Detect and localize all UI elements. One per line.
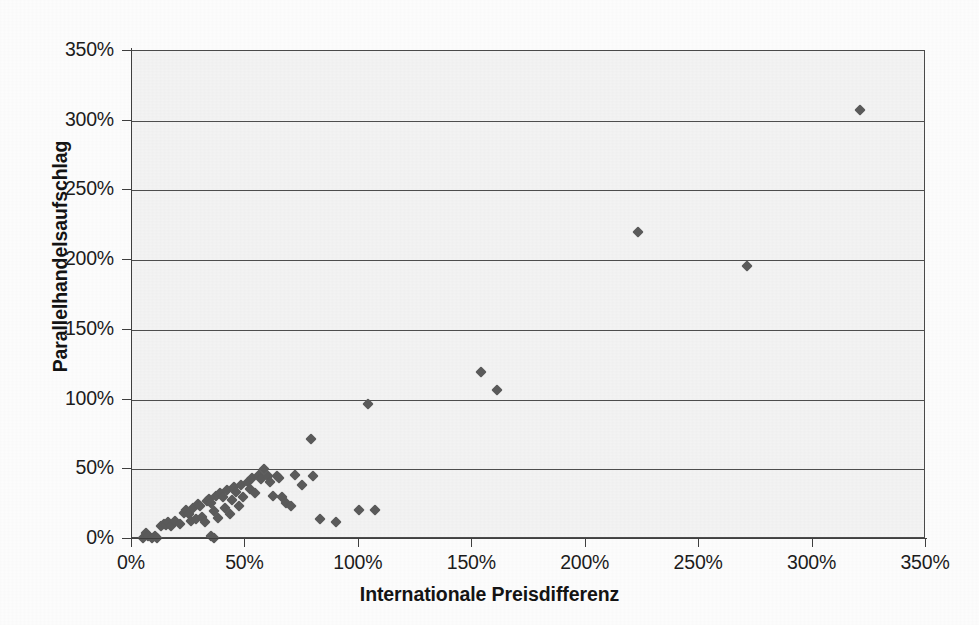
data-point: [315, 514, 326, 525]
x-axis-tick: [812, 538, 813, 547]
data-point: [306, 433, 317, 444]
y-axis-tick: [122, 50, 131, 51]
y-axis-tick-label: 200%: [42, 247, 114, 270]
gridline-y: [132, 400, 924, 401]
gridline-y: [132, 330, 924, 331]
x-axis-tick: [698, 538, 699, 547]
x-axis-title: Internationale Preisdifferenz: [0, 583, 979, 606]
y-axis-tick-label: 250%: [42, 177, 114, 200]
y-axis-tick: [122, 259, 131, 260]
x-axis-tick-label: 100%: [313, 551, 403, 574]
y-axis-tick: [122, 468, 131, 469]
x-axis-tick-label: 200%: [540, 551, 630, 574]
y-axis-tick-label: 50%: [42, 456, 114, 479]
y-axis-tick-label: 100%: [42, 387, 114, 410]
data-point: [632, 227, 643, 238]
data-point: [296, 479, 307, 490]
y-axis-tick: [122, 538, 131, 539]
scatter-chart: Parallelhandelsaufschlag Internationale …: [0, 0, 979, 625]
data-point: [353, 504, 364, 515]
x-axis-tick: [244, 538, 245, 547]
x-axis-line: [129, 538, 927, 539]
x-axis-tick-label: 250%: [653, 551, 743, 574]
gridline-y: [132, 469, 924, 470]
y-axis-tick-label: 300%: [42, 108, 114, 131]
y-axis-tick-label: 0%: [42, 526, 114, 549]
data-point: [290, 469, 301, 480]
x-axis-tick-label: 350%: [880, 551, 970, 574]
gridline-y: [132, 190, 924, 191]
data-point: [369, 504, 380, 515]
y-axis-tick: [122, 189, 131, 190]
data-point: [213, 512, 224, 523]
x-axis-tick: [358, 538, 359, 547]
x-axis-tick: [925, 538, 926, 547]
data-point: [330, 517, 341, 528]
data-point: [741, 260, 752, 271]
gridline-y: [132, 121, 924, 122]
x-axis-tick-label: 50%: [199, 551, 289, 574]
y-axis-tick-label: 150%: [42, 317, 114, 340]
data-point: [308, 471, 319, 482]
data-point: [476, 366, 487, 377]
y-axis-line: [131, 48, 132, 540]
x-axis-tick: [471, 538, 472, 547]
x-axis-tick-label: 300%: [767, 551, 857, 574]
data-point: [492, 384, 503, 395]
y-axis-tick: [122, 399, 131, 400]
x-axis-tick-label: 150%: [426, 551, 516, 574]
y-axis-tick: [122, 120, 131, 121]
x-axis-tick: [131, 538, 132, 547]
x-axis-tick-label: 0%: [86, 551, 176, 574]
data-point: [855, 104, 866, 115]
plot-area: [131, 50, 925, 538]
gridline-y: [132, 260, 924, 261]
y-axis-tick: [122, 329, 131, 330]
x-axis-tick: [585, 538, 586, 547]
y-axis-tick-label: 350%: [42, 38, 114, 61]
